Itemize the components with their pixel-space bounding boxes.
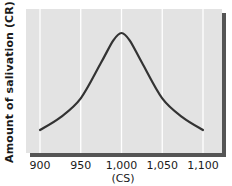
x-tick-label: 1,100: [187, 159, 219, 172]
x-axis-label: (CS): [111, 172, 134, 185]
x-tick-label: 950: [70, 159, 91, 172]
y-axis-label: Amount of salivation (CR): [3, 1, 16, 163]
x-tick-label: 900: [30, 159, 51, 172]
x-tick-label: 1,000: [106, 159, 138, 172]
x-tick-label: 1,050: [147, 159, 179, 172]
gridlines: [40, 9, 203, 153]
plot-canvas: [26, 9, 222, 153]
